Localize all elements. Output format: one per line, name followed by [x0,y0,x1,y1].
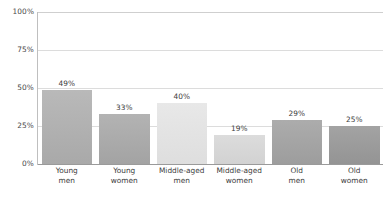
bar[interactable] [99,114,150,164]
x-axis-category-label: Oldwomen [321,166,389,185]
bar-slot: 33% [99,12,150,164]
bar-slot: 19% [214,12,265,164]
bar-value-label: 19% [206,124,273,133]
y-tick-label-50: 50% [0,84,34,92]
y-tick-label-0: 0% [0,160,34,168]
bar-slot: 29% [272,12,323,164]
bar[interactable] [329,126,380,164]
cut-off-caption-text [4,195,304,203]
bar-value-label: 33% [91,103,158,112]
bar[interactable] [272,120,323,164]
bar[interactable] [42,90,93,164]
cut-off-caption [4,195,304,203]
y-tick-label-100: 100% [0,8,34,16]
bar[interactable] [157,103,208,164]
y-tick-label-25: 25% [0,122,34,130]
y-tick-label-75: 75% [0,46,34,54]
bar-slot: 49% [42,12,93,164]
bar-value-label: 40% [149,92,216,101]
bar[interactable] [214,135,265,164]
bar-chart-figure: 100% 75% 50% 25% 0% 49%33%40%19%29%25% Y… [0,0,390,203]
x-axis-category-labels: YoungmenYoungwomenMiddle-agedmenMiddle-a… [38,166,383,192]
bar-value-label: 25% [321,115,388,124]
x-axis-category-label-line: Old [321,166,389,176]
bar-slot: 25% [329,12,380,164]
bar-series: 49%33%40%19%29%25% [38,12,383,165]
y-axis: 100% 75% 50% 25% 0% [0,0,34,203]
x-axis-category-label-line: women [321,176,389,186]
bar-slot: 40% [157,12,208,164]
bar-value-label: 49% [34,79,101,88]
